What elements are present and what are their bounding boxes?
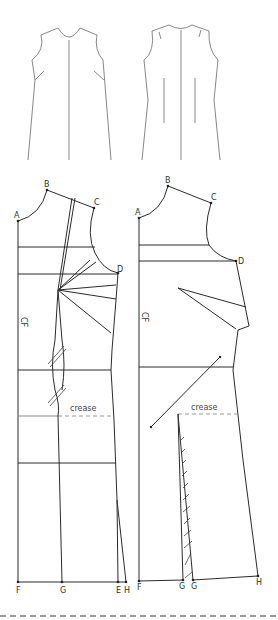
front-point-c: C xyxy=(94,198,100,207)
front-cf-label: CF xyxy=(19,317,28,328)
front-point-b: B xyxy=(44,180,50,189)
front-point-h: H xyxy=(124,586,130,595)
back-point-c: C xyxy=(211,193,217,202)
front-point-a: A xyxy=(14,211,20,220)
back-point-g2: G xyxy=(191,582,197,591)
back-dress-sketch xyxy=(142,25,220,160)
back-point-f: F xyxy=(137,583,142,592)
back-point-g1: G xyxy=(179,582,185,591)
back-cf-label: CF xyxy=(140,312,149,323)
back-point-b: B xyxy=(165,176,171,185)
back-point-a: A xyxy=(135,208,141,217)
back-pattern xyxy=(138,185,260,583)
front-point-d: D xyxy=(117,265,123,274)
front-pattern xyxy=(17,189,128,584)
back-crease-label: crease xyxy=(191,403,218,412)
front-crease-label: crease xyxy=(70,404,97,413)
back-point-h: H xyxy=(256,578,262,587)
front-point-e: E xyxy=(116,586,121,595)
pattern-diagram: A B C D F G E H CF crease xyxy=(0,0,278,620)
front-point-f: F xyxy=(16,586,21,595)
front-dress-sketch xyxy=(28,28,111,160)
front-point-g: G xyxy=(60,586,66,595)
back-point-d: D xyxy=(238,257,244,266)
